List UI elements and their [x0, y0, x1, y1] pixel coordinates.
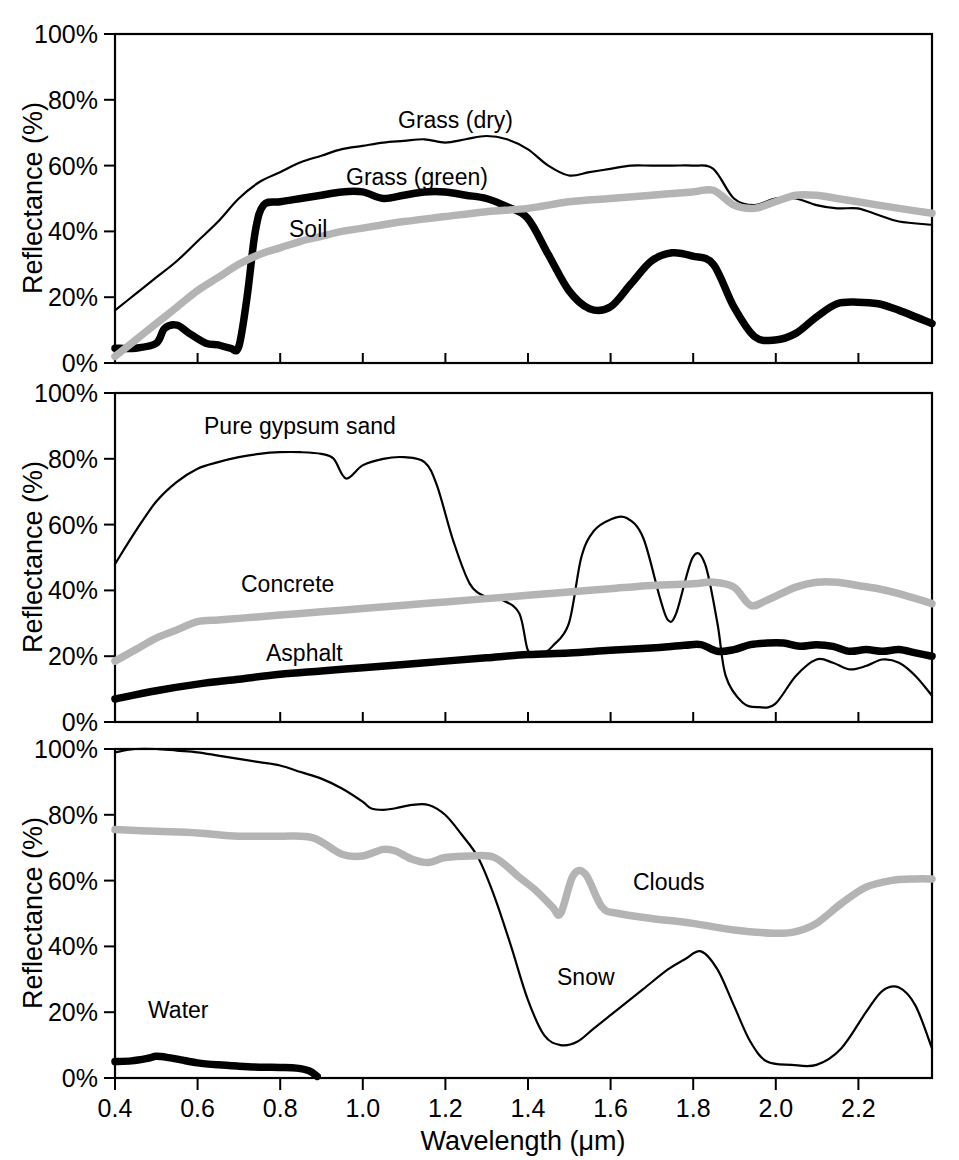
spectral-reflectance-figure: 100% 80% 60% 40% 20% 0% 100% 80% 60% 40%…	[0, 0, 959, 1160]
xtick-1-4: 1.4	[511, 1094, 546, 1122]
panel-2-curves	[115, 452, 932, 708]
label-grass-green: Grass (green)	[346, 164, 488, 190]
chart-svg: 100% 80% 60% 40% 20% 0% 100% 80% 60% 40%…	[0, 0, 959, 1160]
panel-2-x-ticks	[198, 712, 859, 722]
panel-1-x-ticks	[198, 353, 859, 363]
xtick-0-8: 0.8	[263, 1094, 298, 1122]
xtick-2-0: 2.0	[758, 1094, 793, 1122]
label-grass-dry: Grass (dry)	[398, 107, 513, 133]
panel-1-y-axis-title: Reflectance (%)	[18, 102, 48, 294]
panel-1-ytick-20: 20%	[48, 283, 98, 311]
panel-2-ytick-100: 100%	[34, 379, 98, 407]
xtick-1-8: 1.8	[676, 1094, 711, 1122]
panel-3-x-axis: 0.4 0.6 0.8 1.0 1.2 1.4 1.6 1.8 2.0 2.2	[98, 1078, 876, 1122]
panel-2-ytick-40: 40%	[48, 576, 98, 604]
curve-asphalt	[115, 643, 932, 699]
panel-3-ytick-20: 20%	[48, 998, 98, 1026]
panel-1-ytick-80: 80%	[48, 86, 98, 114]
curve-grass-green	[115, 191, 932, 351]
panel-2-frame	[115, 393, 932, 722]
xtick-2-2: 2.2	[841, 1094, 876, 1122]
panel-3-ytick-0: 0%	[62, 1064, 98, 1092]
xtick-1-0: 1.0	[345, 1094, 380, 1122]
label-clouds: Clouds	[633, 869, 705, 895]
curve-water	[115, 1056, 317, 1076]
panel-3-ytick-40: 40%	[48, 932, 98, 960]
panel-1-ytick-60: 60%	[48, 152, 98, 180]
xtick-1-2: 1.2	[428, 1094, 463, 1122]
panel-3-frame	[115, 749, 932, 1078]
panel-2-ytick-60: 60%	[48, 511, 98, 539]
curve-snow	[115, 749, 932, 1067]
label-water: Water	[148, 997, 209, 1023]
label-soil: Soil	[289, 216, 327, 242]
label-snow: Snow	[557, 964, 615, 990]
panel-1-curves	[115, 136, 932, 356]
x-axis-title: Wavelength (μm)	[420, 1126, 625, 1156]
curve-concrete	[115, 582, 932, 661]
panel-1-ytick-0: 0%	[62, 349, 98, 377]
label-gypsum-sand: Pure gypsum sand	[204, 413, 396, 439]
xtick-0-6: 0.6	[180, 1094, 215, 1122]
label-concrete: Concrete	[241, 571, 334, 597]
panel-2-y-axis-title: Reflectance (%)	[18, 461, 48, 653]
panel-1-ytick-100: 100%	[34, 20, 98, 48]
panel-2-ytick-20: 20%	[48, 642, 98, 670]
panel-3-ytick-80: 80%	[48, 801, 98, 829]
panel-3-ytick-60: 60%	[48, 867, 98, 895]
panel-2-ytick-0: 0%	[62, 708, 98, 736]
panel-3-ytick-100: 100%	[34, 735, 98, 763]
curve-clouds	[115, 830, 932, 934]
panel-2-ytick-80: 80%	[48, 445, 98, 473]
xtick-1-6: 1.6	[593, 1094, 628, 1122]
xtick-0-4: 0.4	[98, 1094, 133, 1122]
curve-grass-dry	[115, 136, 932, 310]
panel-3-y-axis-title: Reflectance (%)	[18, 817, 48, 1009]
panel-3-curves	[115, 749, 932, 1077]
label-asphalt: Asphalt	[266, 640, 343, 666]
panel-1-ytick-40: 40%	[48, 217, 98, 245]
